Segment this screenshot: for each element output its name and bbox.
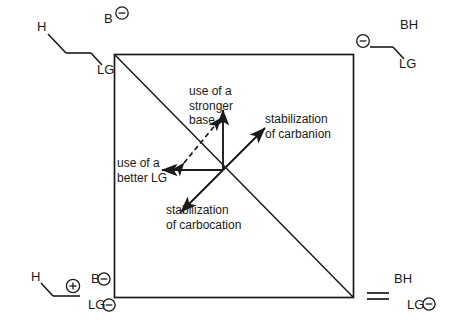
top-right-leaving-group-label: LG [399,57,416,71]
bond-h-c [48,34,66,53]
annotation-carbanion-stabilization-line2: of carbanion [265,127,331,142]
top-left-leaving-group-label: LG [97,63,114,77]
top-left-base-label: B [104,12,113,26]
annotation-carbanion-stabilization: stabilization of carbanion [265,112,331,141]
annotation-carbocation-stabilization: stabilization of carbocation [166,203,241,232]
diagram-vector-layer [0,0,451,336]
bottom-left-leaving-group-label: LG [88,298,105,312]
bottom-left-base-label: B [91,272,100,286]
annotation-better-lg-line2: better LG [117,171,167,186]
corner-structure-top-right [357,35,404,59]
annotation-stronger-base: use of a stronger base [189,84,233,128]
top-left-base-charge-icon [113,4,131,22]
annotation-carbanion-stabilization-line1: stabilization [265,112,331,127]
bottom-right-leaving-group-label: LG [407,298,424,312]
corner-structure-bottom-right [367,293,435,310]
top-right-conjugate-acid-label: BH [400,18,418,32]
annotation-better-lg: use of a better LG [117,156,167,185]
annotation-stronger-base-line2: stronger [189,99,233,114]
annotation-carbocation-stabilization-line2: of carbocation [166,218,241,233]
annotation-stronger-base-line1: use of a [189,84,233,99]
annotation-better-lg-line1: use of a [117,156,167,171]
bottom-left-hydrogen-label: H [31,270,40,284]
corner-structure-top-left [48,34,102,65]
annotation-carbocation-stabilization-line1: stabilization [166,203,241,218]
carbanion-stabilization-arrow [223,128,265,170]
bond-h-c-bl [41,283,53,296]
bottom-right-conjugate-acid-label: BH [394,272,412,286]
diagram-canvas: H LG B BH LG H B LG BH LG use of a stron… [0,0,451,336]
annotation-stronger-base-line3: base [189,113,233,128]
top-left-hydrogen-label: H [37,20,46,34]
